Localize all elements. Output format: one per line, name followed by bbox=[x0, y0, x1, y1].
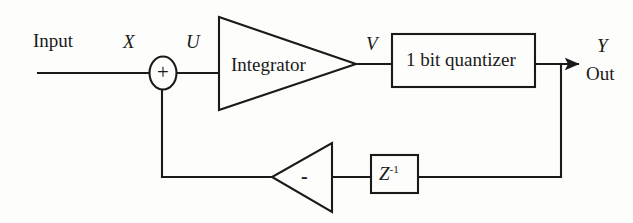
v-signal-label: V bbox=[366, 34, 378, 53]
integrator-label: Integrator bbox=[231, 55, 306, 74]
delay-exponent-text: -1 bbox=[390, 163, 399, 175]
out-label: Out bbox=[586, 64, 615, 83]
diagram-canvas bbox=[0, 0, 633, 223]
u-signal-label: U bbox=[186, 32, 200, 51]
delay-label: Z-1 bbox=[379, 164, 399, 183]
delay-base-text: Z bbox=[379, 163, 390, 184]
block-diagram-figure: Input X + U Integrator V 1 bit quantizer… bbox=[0, 0, 633, 223]
y-signal-label: Y bbox=[597, 36, 608, 55]
x-signal-label: X bbox=[123, 32, 135, 51]
input-label: Input bbox=[33, 31, 73, 50]
quantizer-label: 1 bit quantizer bbox=[406, 50, 516, 69]
feedback-gain-minus-sign: - bbox=[301, 166, 308, 186]
summing-node-plus-sign: + bbox=[157, 62, 169, 83]
